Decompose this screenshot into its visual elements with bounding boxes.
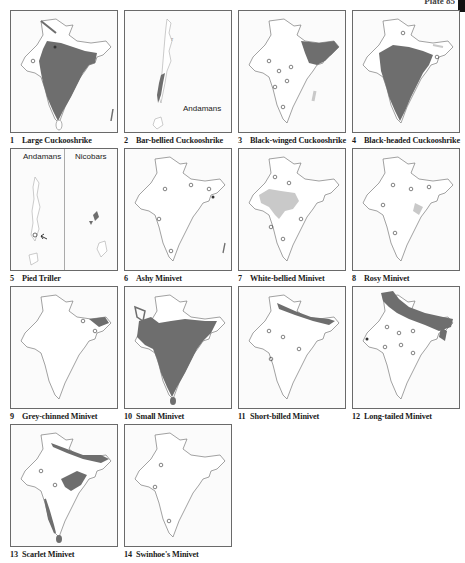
range-map (238, 10, 346, 133)
species-name: Long-tailed Minivet (364, 412, 432, 421)
range-map (124, 148, 232, 271)
map-caption: 11Short-billed Minivet (238, 412, 346, 421)
range-map: Andamans Nicobars (10, 148, 118, 271)
range-map (238, 148, 346, 271)
map-caption: 6Ashy Minivet (124, 274, 232, 283)
map-panel-7: 7White-bellied Minivet (238, 148, 346, 283)
species-name: Black-headed Cuckooshrike (364, 136, 460, 145)
map-caption: 9Grey-chinned Minivet (10, 412, 118, 421)
india-outline-icon (125, 149, 231, 270)
species-name: Small Minivet (136, 412, 184, 421)
india-outline-icon (11, 425, 117, 546)
map-caption: 7White-bellied Minivet (238, 274, 346, 283)
range-map (124, 286, 232, 409)
map-caption: 5Pied Triller (10, 274, 118, 283)
plate-label: Plate 85 (424, 0, 455, 6)
map-caption: 1Large Cuckooshrike (10, 136, 118, 145)
species-name: Black-winged Cuckooshrike (250, 136, 346, 145)
map-caption: 14Swinhoe's Minivet (124, 550, 232, 559)
range-map (10, 424, 118, 547)
map-label-andamans: Andamans (183, 104, 221, 113)
map-panel-12: 12Long-tailed Minivet (352, 286, 460, 421)
india-outline-icon (239, 287, 345, 408)
species-name: White-bellied Minivet (250, 274, 325, 283)
range-map (352, 286, 460, 409)
india-outline-icon (239, 11, 345, 132)
india-outline-icon (125, 425, 231, 546)
map-caption: 10Small Minivet (124, 412, 232, 421)
range-map (10, 286, 118, 409)
svg-text:?: ? (171, 37, 174, 42)
species-name: Grey-chinned Minivet (22, 412, 97, 421)
map-panel-13: 13Scarlet Minivet (10, 424, 118, 559)
india-outline-icon (353, 287, 459, 408)
andaman-nicobar-islands-icon (11, 149, 117, 270)
range-map (124, 424, 232, 547)
map-panel-14: 14Swinhoe's Minivet (124, 424, 232, 559)
andaman-islands-icon: ? (125, 11, 231, 132)
range-map (10, 10, 118, 133)
range-map (352, 148, 460, 271)
map-panel-1: 1Large Cuckooshrike (10, 10, 118, 145)
map-caption: 12Long-tailed Minivet (352, 412, 460, 421)
map-label-nicobars: Nicobars (75, 152, 107, 161)
map-panel-4: 4Black-headed Cuckooshrike (352, 10, 460, 145)
map-caption: 4Black-headed Cuckooshrike (352, 136, 460, 145)
map-label-andamans: Andamans (23, 152, 61, 161)
india-outline-icon (353, 11, 459, 132)
species-name: Bar-bellied Cuckooshrike (136, 136, 223, 145)
map-panel-5: Andamans Nicobars 5Pied Triller (10, 148, 118, 283)
map-caption: 3Black-winged Cuckooshrike (238, 136, 346, 145)
range-map (352, 10, 460, 133)
map-caption: 8Rosy Minivet (352, 274, 460, 283)
map-panel-10: 10Small Minivet (124, 286, 232, 421)
species-name: Swinhoe's Minivet (136, 550, 199, 559)
map-panel-8: 8Rosy Minivet (352, 148, 460, 283)
species-name: Ashy Minivet (136, 274, 182, 283)
map-caption: 13Scarlet Minivet (10, 550, 118, 559)
range-map: ? Andamans (124, 10, 232, 133)
species-name: Rosy Minivet (364, 274, 409, 283)
india-outline-icon (125, 287, 231, 408)
map-panel-6: 6Ashy Minivet (124, 148, 232, 283)
range-map (238, 286, 346, 409)
india-outline-icon (239, 149, 345, 270)
india-outline-icon (11, 287, 117, 408)
map-caption: 2Bar-bellied Cuckooshrike (124, 136, 232, 145)
species-name: Pied Triller (22, 274, 61, 283)
map-panel-11: 11Short-billed Minivet (238, 286, 346, 421)
map-panel-3: 3Black-winged Cuckooshrike (238, 10, 346, 145)
india-outline-icon (11, 11, 117, 132)
species-name: Large Cuckooshrike (22, 136, 92, 145)
map-panel-2: ? Andamans 2Bar-bellied Cuckooshrike (124, 10, 232, 145)
species-name: Scarlet Minivet (22, 550, 74, 559)
species-name: Short-billed Minivet (250, 412, 319, 421)
map-panel-9: 9Grey-chinned Minivet (10, 286, 118, 421)
india-outline-icon (353, 149, 459, 270)
